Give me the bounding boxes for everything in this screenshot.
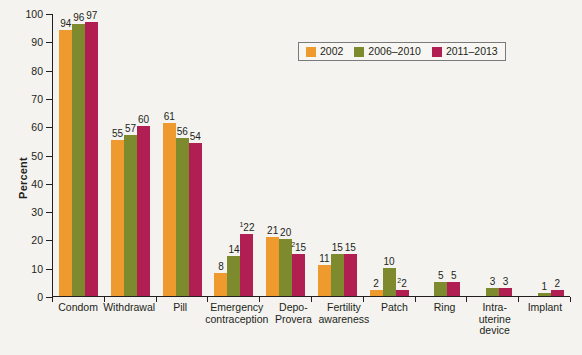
y-tick-mark	[46, 71, 52, 72]
bar-value-label: 20	[280, 228, 291, 238]
bar-value-label: 15	[332, 243, 343, 253]
y-tick-label: 80	[31, 65, 43, 77]
bar-value-label: 11	[319, 254, 329, 264]
x-axis-labels: CondomWithdrawalPillEmergency contracept…	[53, 302, 570, 337]
y-tick-label: 60	[31, 121, 43, 133]
footnote-marker: 2	[291, 240, 295, 247]
x-axis-category-label: Fertility awareness	[319, 302, 370, 337]
bar: 97	[85, 22, 98, 297]
bar-value-label: 60	[138, 115, 149, 125]
y-tick-mark	[46, 127, 52, 128]
y-tick-label: 40	[31, 178, 43, 190]
bar-value-label: 96	[73, 13, 84, 23]
legend-label: 2006–2010	[368, 46, 421, 57]
footnote-marker: 2	[397, 277, 401, 284]
legend-item: 2006–2010	[354, 46, 421, 57]
bar: 21	[266, 237, 279, 296]
bar-value-label: 97	[86, 11, 97, 21]
bar: 11	[318, 265, 331, 296]
bar: 3	[499, 288, 512, 296]
bar: 56	[176, 138, 189, 296]
y-tick-mark	[46, 14, 52, 15]
y-tick-label: 20	[31, 234, 43, 246]
y-tick-mark	[46, 269, 52, 270]
legend-item: 2002	[306, 46, 343, 57]
bar-value-label: 56	[177, 127, 188, 137]
bar: 122	[240, 234, 253, 296]
bar-value-label: 55	[112, 129, 123, 139]
y-tick-mark	[46, 212, 52, 213]
bar: 61	[163, 123, 176, 296]
bar: 55	[111, 140, 124, 296]
x-axis-category-label: Patch	[369, 302, 419, 337]
bar-value-label: 5	[438, 271, 444, 281]
bar: 3	[486, 288, 499, 296]
x-axis-category-label: Pill	[155, 302, 205, 337]
bar: 5	[434, 282, 447, 296]
bar-value-label: 21	[267, 226, 278, 236]
legend-swatch	[432, 47, 442, 57]
x-axis-category-label: Depo- Provera	[268, 302, 318, 337]
bar-group: 555760	[105, 14, 157, 296]
y-tick-label: 50	[31, 150, 43, 162]
bar-value-label: 14	[228, 245, 239, 255]
bar-value-label: 5	[451, 271, 457, 281]
y-tick-label: 100	[25, 8, 43, 20]
bar: 10	[383, 268, 396, 296]
bar-value-label: 1	[541, 282, 547, 292]
legend-swatch	[306, 47, 316, 57]
x-tick-mark	[570, 297, 571, 302]
bar: 15	[344, 254, 357, 296]
bar-value-label: 61	[164, 112, 175, 122]
x-axis-category-label: Intra- uterine device	[470, 302, 520, 337]
bar: 22	[396, 290, 409, 296]
bar: 14	[227, 256, 240, 296]
bar: 60	[137, 126, 150, 296]
bar: 1	[538, 293, 551, 296]
x-axis-category-label: Withdrawal	[103, 302, 155, 337]
y-tick-mark	[46, 99, 52, 100]
bar: 15	[331, 254, 344, 296]
y-tick-label: 70	[31, 93, 43, 105]
bar: 96	[72, 24, 85, 296]
y-tick-mark	[46, 240, 52, 241]
bar-group: 814122	[208, 14, 260, 296]
legend-swatch	[354, 47, 364, 57]
bar-value-label: 122	[239, 223, 254, 233]
bar-value-label: 2	[554, 279, 560, 289]
x-axis-category-label: Emergency contraception	[205, 302, 268, 337]
bar-value-label: 3	[490, 277, 496, 287]
bar-value-label: 57	[125, 124, 136, 134]
y-axis-title: Percent	[17, 157, 29, 199]
bar-value-label: 22	[397, 279, 406, 289]
y-tick-mark	[46, 184, 52, 185]
x-axis-category-label: Implant	[520, 302, 570, 337]
bar-value-label: 3	[503, 277, 509, 287]
bar-group: 12	[518, 14, 570, 296]
bar-group: 615654	[156, 14, 208, 296]
footnote-marker: 1	[239, 220, 243, 227]
bar: 5	[447, 282, 460, 296]
bar-value-label: 10	[384, 257, 395, 267]
bar-value-label: 2	[373, 279, 379, 289]
bar: 215	[292, 254, 305, 296]
bar-value-label: 15	[345, 243, 356, 253]
bar: 2	[370, 290, 383, 296]
y-tick-mark	[46, 156, 52, 157]
bar-value-label: 8	[218, 262, 224, 272]
y-tick-label: 0	[37, 291, 43, 303]
bar: 94	[59, 30, 72, 296]
bar: 2	[551, 290, 564, 296]
x-axis-category-label: Ring	[419, 302, 469, 337]
legend-item: 2011–2013	[432, 46, 498, 57]
bar: 54	[189, 143, 202, 296]
x-axis-category-label: Condom	[53, 302, 103, 337]
y-tick-label: 10	[31, 263, 43, 275]
bar: 8	[214, 273, 227, 296]
y-tick-label: 30	[31, 206, 43, 218]
bar-value-label: 94	[60, 19, 71, 29]
legend-label: 2002	[320, 46, 343, 57]
bar-value-label: 215	[291, 243, 306, 253]
y-tick-mark	[46, 42, 52, 43]
bar-chart: Percent 0102030405060708090100 949697555…	[0, 0, 582, 355]
